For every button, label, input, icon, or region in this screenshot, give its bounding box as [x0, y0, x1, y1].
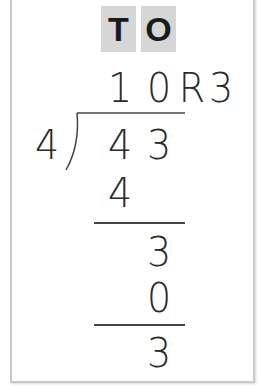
divisor: 4	[35, 125, 60, 165]
step-subtract-ones: 0	[147, 278, 172, 318]
dividend-tens: 4	[108, 125, 133, 165]
final-remainder: 3	[147, 333, 172, 373]
dividend-ones: 3	[147, 125, 172, 165]
subtraction-line-2	[94, 324, 185, 326]
subtraction-line-1	[94, 222, 185, 224]
step-subtract-tens: 4	[108, 173, 133, 213]
step-bring-down: 3	[147, 232, 172, 272]
